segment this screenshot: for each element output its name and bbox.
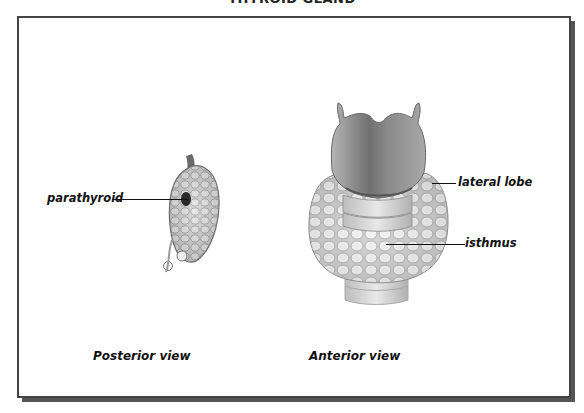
- leader-line-parathyroid: [112, 199, 188, 200]
- label-lateral-lobe: lateral lobe: [458, 175, 532, 189]
- leader-line-lateral-lobe: [432, 183, 456, 184]
- label-parathyroid: parathyroid: [47, 191, 123, 205]
- posterior-view-illustration: [0, 0, 584, 413]
- label-isthmus: isthmus: [465, 236, 517, 250]
- caption-anterior-view: Anterior view: [309, 349, 400, 363]
- caption-posterior-view: Posterior view: [93, 349, 191, 363]
- leader-line-isthmus: [386, 244, 465, 245]
